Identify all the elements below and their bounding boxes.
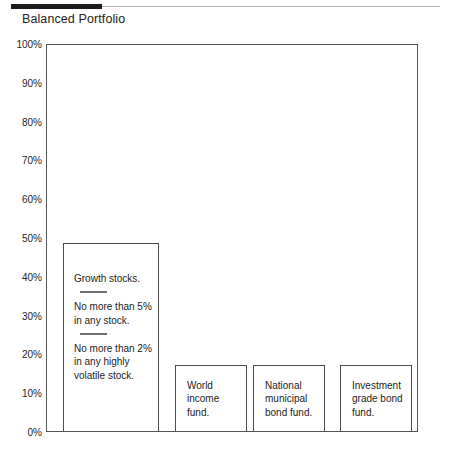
- bar-label-divider: [80, 333, 107, 335]
- bar-label-line: Growth stocks.: [74, 272, 152, 285]
- chart-bar: Investment grade bond fund.: [340, 365, 412, 431]
- chart-bar-label: Investment grade bond fund.: [352, 379, 405, 419]
- y-axis-tick-label: 60%: [22, 194, 42, 205]
- bar-label-line: Investment grade bond fund.: [352, 379, 405, 419]
- chart-bar-label: World income fund.: [187, 379, 240, 419]
- y-axis-tick-label: 80%: [22, 116, 42, 127]
- page-title: Balanced Portfolio: [22, 12, 125, 27]
- bar-label-line: National municipal bond fund.: [265, 379, 318, 419]
- y-axis-tick-label: 70%: [22, 155, 42, 166]
- y-axis-tick-label: 10%: [22, 388, 42, 399]
- y-axis-tick-label: 50%: [22, 233, 42, 244]
- bar-label-line: World income fund.: [187, 379, 240, 419]
- chart-bar-label: Growth stocks.No more than 5% in any sto…: [74, 272, 152, 382]
- chart-bar-label: National municipal bond fund.: [265, 379, 318, 419]
- chart-bar: National municipal bond fund.: [253, 365, 325, 431]
- y-axis-tick-label: 90%: [22, 77, 42, 88]
- header-rule: [0, 4, 449, 10]
- y-axis-tick-label: 0%: [28, 427, 42, 438]
- header-rule-accent: [11, 4, 102, 9]
- y-axis: 100%90%80%70%60%50%40%30%20%10%0%: [0, 44, 42, 432]
- header-rule-line: [102, 6, 440, 7]
- y-axis-tick-label: 20%: [22, 349, 42, 360]
- y-axis-tick-label: 100%: [16, 39, 42, 50]
- chart-bar: World income fund.: [175, 365, 247, 431]
- chart-bar: Growth stocks.No more than 5% in any sto…: [63, 243, 159, 431]
- y-axis-tick-label: 30%: [22, 310, 42, 321]
- y-axis-tick-label: 40%: [22, 271, 42, 282]
- bar-label-line: No more than 5% in any stock.: [74, 300, 152, 327]
- bar-label-divider: [80, 291, 107, 293]
- bar-label-line: No more than 2% in any highly volatile s…: [74, 342, 152, 382]
- chart-plot-area: Growth stocks.No more than 5% in any sto…: [46, 44, 418, 432]
